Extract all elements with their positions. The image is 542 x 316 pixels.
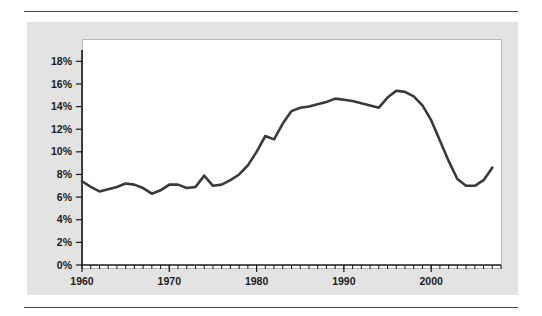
chart-axes — [82, 50, 501, 265]
y-tick-label: 4% — [57, 213, 73, 225]
y-tick-label: 8% — [57, 168, 73, 180]
line-chart: 0%2%4%6%8%10%12%14%16%18% 19601970198019… — [27, 22, 518, 295]
x-tick-label: 1970 — [158, 275, 182, 287]
y-tick-label: 0% — [57, 259, 73, 271]
x-tick-label: 1960 — [70, 275, 94, 287]
y-tick-label: 14% — [51, 100, 73, 112]
x-axis-tick-labels: 19601970198019902000 — [70, 275, 443, 287]
x-tick-label: 1980 — [245, 275, 269, 287]
y-tick-label: 18% — [51, 55, 73, 67]
y-axis-tick-labels: 0%2%4%6%8%10%12%14%16%18% — [51, 55, 73, 271]
y-tick-label: 2% — [57, 236, 73, 248]
figure-panel: 0%2%4%6%8%10%12%14%16%18% 19601970198019… — [27, 22, 518, 295]
x-tick-label: 2000 — [419, 275, 443, 287]
top-horizontal-rule — [24, 11, 518, 12]
y-axis-tick-marks — [76, 61, 82, 265]
y-tick-label: 16% — [51, 78, 73, 90]
y-tick-label: 12% — [51, 123, 73, 135]
page-root: 0%2%4%6%8%10%12%14%16%18% 19601970198019… — [0, 0, 542, 316]
data-series-line — [82, 91, 492, 194]
y-tick-label: 6% — [57, 191, 73, 203]
x-tick-label: 1990 — [332, 275, 356, 287]
y-tick-label: 10% — [51, 145, 73, 157]
bottom-horizontal-rule — [24, 307, 518, 308]
